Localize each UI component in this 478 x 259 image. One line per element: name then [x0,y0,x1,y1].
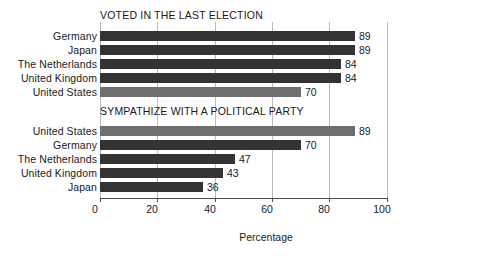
bar-value-label: 47 [239,153,251,165]
bar-value-label: 84 [345,58,357,70]
bar-value-label: 43 [227,167,239,179]
x-axis-tick [272,198,273,202]
x-axis-tick [157,198,158,202]
bar-value-label: 84 [345,72,357,84]
gridline-100 [387,22,388,198]
bar-panel1-united-states [100,87,301,97]
bar-chart-figure: VOTED IN THE LAST ELECTION Germany Japan… [0,0,478,259]
x-axis-tick-label: 0 [92,203,98,215]
panel-2-title: SYMPATHIZE WITH A POLITICAL PARTY [100,105,304,117]
x-axis-tick [100,198,101,202]
bar-value-label: 89 [359,30,371,42]
category-label: Germany [53,139,97,151]
bar-panel1-japan [100,45,355,55]
category-label: The Netherlands [18,153,97,165]
panel-2-category-labels: United States Germany The Netherlands Un… [0,0,97,200]
bar-panel2-united-states [100,126,355,136]
bar-panel1-united-kingdom [100,73,341,83]
x-axis-line [100,198,388,199]
bar-value-label: 70 [305,139,317,151]
x-axis-tick-label: 60 [261,203,273,215]
bar-panel1-the-netherlands [100,59,341,69]
bar-value-label: 89 [359,44,371,56]
bar-value-label: 36 [207,181,219,193]
category-label: Japan [68,181,97,193]
x-axis-tick-label: 80 [318,203,330,215]
bar-panel1-germany [100,31,355,41]
category-label: United Kingdom [21,167,97,179]
x-axis-tick [387,198,388,202]
category-label: United States [33,125,97,137]
x-axis-tick-label: 20 [146,203,158,215]
bar-panel2-united-kingdom [100,168,223,178]
bar-panel2-the-netherlands [100,154,235,164]
bar-panel2-japan [100,182,203,192]
x-axis-title: Percentage [239,231,293,243]
bar-value-label: 89 [359,125,371,137]
bar-panel2-germany [100,140,301,150]
bar-value-label: 70 [305,86,317,98]
x-axis-tick [215,198,216,202]
x-axis-tick-label: 40 [204,203,216,215]
panel-1-title: VOTED IN THE LAST ELECTION [100,9,263,21]
x-axis-tick-label: 100 [373,203,391,215]
x-axis-tick [329,198,330,202]
